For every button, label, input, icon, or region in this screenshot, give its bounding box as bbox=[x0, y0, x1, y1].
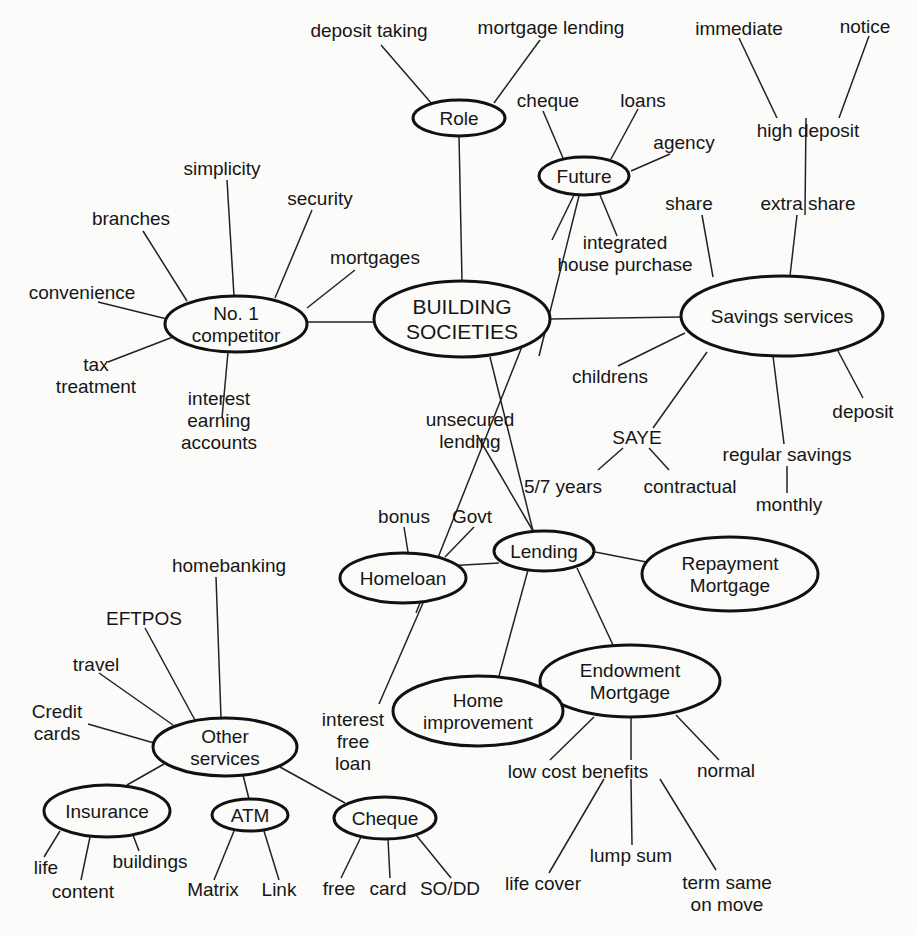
node-ellipse bbox=[642, 537, 818, 611]
node-contractual: contractual bbox=[644, 476, 737, 497]
node-label: life cover bbox=[505, 873, 582, 894]
node-label: Link bbox=[262, 879, 297, 900]
node-label: share bbox=[665, 193, 713, 214]
node-interest-earning-accounts: interestearningaccounts bbox=[181, 388, 257, 453]
node-low-cost-benefits: low cost benefits bbox=[508, 761, 648, 782]
node-label: monthly bbox=[756, 494, 823, 515]
node-savings-services: Savings services bbox=[681, 276, 883, 356]
connector-line bbox=[44, 831, 60, 857]
connector-line bbox=[127, 764, 164, 785]
node-label: buildings bbox=[113, 851, 188, 872]
connector-line bbox=[702, 215, 713, 277]
node-label: branches bbox=[92, 208, 170, 229]
connector-line bbox=[577, 568, 613, 645]
node-label: travel bbox=[73, 654, 119, 675]
connector-line bbox=[631, 154, 670, 171]
connector-line bbox=[618, 333, 685, 366]
building-societies-mind-map: BUILDINGSOCIETIESRoleFutureNo. 1competit… bbox=[0, 0, 917, 935]
node-label: term same bbox=[682, 872, 772, 893]
node-insurance: Insurance bbox=[44, 785, 170, 837]
connector-line bbox=[445, 527, 474, 557]
node-label: cards bbox=[34, 723, 80, 744]
node-label: Mortgage bbox=[690, 575, 770, 596]
connector-line bbox=[416, 835, 451, 878]
connector-line bbox=[98, 302, 171, 320]
node-free: free bbox=[323, 878, 356, 899]
node-no1-competitor: No. 1competitor bbox=[165, 296, 307, 352]
connector-line bbox=[145, 628, 196, 722]
node-extra-share: extra share bbox=[760, 193, 855, 214]
node-so-dd: SO/DD bbox=[420, 878, 480, 899]
node-high-deposit: high deposit bbox=[757, 120, 860, 141]
node-label: house purchase bbox=[557, 254, 692, 275]
node-label: unsecured bbox=[426, 409, 515, 430]
connector-line bbox=[264, 831, 279, 880]
node-bonus: bonus bbox=[378, 506, 430, 527]
node-role: Role bbox=[413, 100, 505, 136]
node-label: mortgage lending bbox=[478, 17, 625, 38]
node-deposit-taking: deposit taking bbox=[310, 20, 427, 41]
node-immediate: immediate bbox=[695, 18, 783, 39]
node-label: normal bbox=[697, 760, 755, 781]
node-interest-free-loan: interestfreeloan bbox=[322, 709, 385, 774]
connector-line bbox=[543, 111, 563, 158]
node-deposit: deposit bbox=[832, 401, 894, 422]
node-label: treatment bbox=[56, 376, 137, 397]
connector-line bbox=[649, 448, 669, 470]
node-normal: normal bbox=[697, 760, 755, 781]
node-label: interest bbox=[322, 709, 385, 730]
node-eftpos: EFTPOS bbox=[106, 608, 182, 629]
node-cheque: cheque bbox=[517, 90, 579, 111]
node-other-services: Otherservices bbox=[153, 718, 297, 776]
connector-line bbox=[88, 724, 154, 743]
connector-line bbox=[739, 38, 777, 118]
node-label: ATM bbox=[231, 805, 270, 826]
node-ellipse bbox=[393, 676, 563, 746]
node-label: SAYE bbox=[612, 427, 661, 448]
connector-line bbox=[381, 45, 432, 104]
node-label: Repayment bbox=[681, 553, 779, 574]
node-label: notice bbox=[840, 16, 891, 37]
node-term-same-on-move: term sameon move bbox=[682, 872, 772, 915]
node-label: Endowment bbox=[580, 660, 681, 681]
node-label: SO/DD bbox=[420, 878, 480, 899]
node-unsecured-lending: unsecuredlending bbox=[426, 409, 515, 452]
node-loans: loans bbox=[620, 90, 665, 111]
node-label: convenience bbox=[29, 282, 136, 303]
node-label: Role bbox=[439, 108, 478, 129]
node-label: 5/7 years bbox=[524, 476, 602, 497]
connector-line bbox=[275, 210, 312, 298]
connector-line bbox=[653, 352, 707, 428]
node-agency: agency bbox=[653, 132, 715, 153]
node-childrens: childrens bbox=[572, 366, 648, 387]
node-label: improvement bbox=[423, 712, 534, 733]
node-label: bonus bbox=[378, 506, 430, 527]
node-label: free bbox=[323, 878, 356, 899]
node-five-seven-years: 5/7 years bbox=[524, 476, 602, 497]
node-label: Homeloan bbox=[360, 568, 447, 589]
node-label: Govt bbox=[452, 506, 493, 527]
node-label: cheque bbox=[517, 90, 579, 111]
node-future: Future bbox=[539, 157, 629, 195]
connector-line bbox=[790, 215, 797, 276]
node-label: No. 1 bbox=[213, 303, 258, 324]
node-share: share bbox=[665, 193, 713, 214]
connector-line bbox=[773, 356, 784, 444]
node-home-improvement: Homeimprovement bbox=[393, 676, 563, 746]
node-credit-cards: Creditcards bbox=[32, 701, 83, 744]
connector-line bbox=[404, 527, 408, 552]
node-label: EFTPOS bbox=[106, 608, 182, 629]
node-label: Home bbox=[453, 690, 504, 711]
node-label: Insurance bbox=[65, 801, 148, 822]
node-monthly: monthly bbox=[756, 494, 823, 515]
connector-line bbox=[227, 180, 234, 296]
connector-line bbox=[99, 673, 173, 725]
node-label: Savings services bbox=[711, 306, 854, 327]
node-label: content bbox=[52, 881, 115, 902]
node-simplicity: simplicity bbox=[183, 158, 261, 179]
node-building-societies: BUILDINGSOCIETIES bbox=[374, 281, 550, 357]
node-label: mortgages bbox=[330, 247, 420, 268]
node-life: life bbox=[34, 857, 58, 878]
node-regular-savings: regular savings bbox=[723, 444, 852, 465]
node-label: immediate bbox=[695, 18, 783, 39]
